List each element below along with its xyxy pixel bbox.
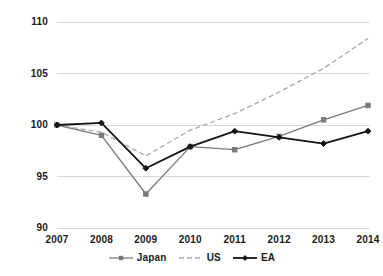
legend-swatch-japan-icon xyxy=(108,253,134,263)
series-line-ea xyxy=(57,123,368,168)
y-tick-label: 95 xyxy=(16,171,48,182)
data-point-japan xyxy=(321,118,325,122)
line-chart: 1101051009590 20072008200920102011201220… xyxy=(0,0,383,276)
legend-label: Japan xyxy=(137,252,167,263)
data-point-japan xyxy=(233,148,237,152)
data-point-ea xyxy=(232,128,238,134)
legend-swatch-ea-icon xyxy=(232,253,258,263)
chart-legend: JapanUSEA xyxy=(0,252,383,263)
x-tick-label: 2014 xyxy=(347,234,383,245)
data-series-group xyxy=(54,38,371,196)
x-tick-label: 2012 xyxy=(258,234,300,245)
data-point-japan xyxy=(144,192,148,196)
x-tick-label: 2011 xyxy=(214,234,256,245)
y-tick-label: 110 xyxy=(16,16,48,27)
y-tick-label: 90 xyxy=(16,222,48,233)
x-tick-label: 2013 xyxy=(303,234,345,245)
x-tick-label: 2010 xyxy=(169,234,211,245)
legend-item-us[interactable]: US xyxy=(178,252,221,263)
data-point-japan xyxy=(99,133,103,137)
y-tick-label: 100 xyxy=(16,119,48,130)
legend-item-japan[interactable]: Japan xyxy=(108,252,167,263)
x-tick-label: 2008 xyxy=(80,234,122,245)
data-point-japan xyxy=(366,103,370,107)
y-tick-label: 105 xyxy=(16,68,48,79)
legend-label: EA xyxy=(261,252,275,263)
legend-item-ea[interactable]: EA xyxy=(232,252,275,263)
x-tick-label: 2007 xyxy=(36,234,78,245)
legend-swatch-us-icon xyxy=(178,253,204,263)
legend-label: US xyxy=(207,252,221,263)
data-point-ea xyxy=(365,128,371,134)
x-tick-label: 2009 xyxy=(125,234,167,245)
data-point-ea xyxy=(321,141,327,147)
